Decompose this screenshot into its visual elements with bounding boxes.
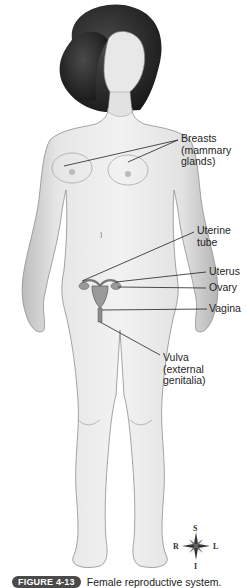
compass-left: L: [213, 542, 218, 551]
torso: [22, 108, 218, 568]
figure-number-badge: FIGURE 4-13: [12, 576, 81, 588]
figure-caption: FIGURE 4-13 Female reproductive system.: [12, 576, 222, 588]
figure-caption-text: Female reproductive system.: [87, 576, 222, 588]
label-ovary: Ovary: [209, 282, 237, 294]
compass-superior: S: [193, 524, 197, 533]
label-vagina: Vagina: [209, 303, 241, 315]
label-uterus: Uterus: [209, 266, 240, 278]
compass-inferior: I: [194, 562, 197, 571]
label-uterine-tube: Uterine tube: [197, 225, 231, 248]
compass-rose: [182, 532, 210, 560]
label-vulva: Vulva (external genitalia): [163, 352, 206, 387]
compass-right: R: [173, 542, 179, 551]
label-breasts: Breasts (mammary glands): [181, 133, 231, 168]
